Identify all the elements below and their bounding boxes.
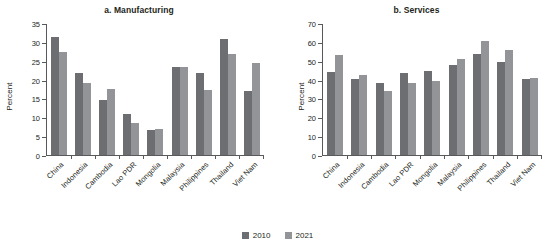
y-tick-mark <box>318 118 322 119</box>
bar-2010 <box>99 100 107 155</box>
bar-2021 <box>481 41 489 155</box>
bar-2010 <box>351 79 359 155</box>
bar-2010 <box>497 62 505 155</box>
panel-title-manufacturing: a. Manufacturing <box>0 5 278 15</box>
bar-2010 <box>327 72 335 155</box>
legend-swatch-icon <box>242 232 249 239</box>
x-axis-labels-manufacturing: ChinaIndonesiaCambodiaLao PDRMongoliaMal… <box>47 158 265 214</box>
legend-label: 2021 <box>296 231 314 240</box>
y-tick-mark <box>318 43 322 44</box>
y-axis-title-services: Percent <box>297 75 306 119</box>
bar-group <box>396 24 420 155</box>
y-tick-mark <box>318 81 322 82</box>
y-tick-mark <box>42 99 46 100</box>
bar-2021 <box>457 59 465 155</box>
chart-legend: 20102021 <box>0 231 555 240</box>
y-tick-label: 10 <box>32 114 40 123</box>
bar-group <box>445 24 469 155</box>
y-tick-label: 0 <box>36 152 40 161</box>
bar-2010 <box>376 83 384 155</box>
y-tick-label: 50 <box>308 57 316 66</box>
bar-2021 <box>408 83 416 155</box>
panels-container: a. Manufacturing Percent 05101520253035 … <box>0 0 555 220</box>
plot-area-manufacturing: 05101520253035 <box>46 24 264 156</box>
bar-group <box>216 24 240 155</box>
bar-2021 <box>432 81 440 155</box>
y-tick-label: 35 <box>32 20 40 29</box>
bar-group <box>143 24 167 155</box>
bar-2010 <box>172 67 180 155</box>
y-tick-mark <box>318 62 322 63</box>
bar-2021 <box>505 50 513 155</box>
bar-2010 <box>400 73 408 155</box>
legend-item: 2021 <box>285 231 314 240</box>
y-tick-mark <box>42 118 46 119</box>
bar-2021 <box>155 129 163 155</box>
x-axis-line-manufacturing <box>46 155 264 156</box>
bar-group <box>372 24 396 155</box>
bar-group <box>493 24 517 155</box>
bar-groups-services <box>323 24 542 155</box>
bar-group <box>192 24 216 155</box>
bar-2010 <box>123 114 131 155</box>
bar-2010 <box>147 130 155 155</box>
y-tick-label: 20 <box>308 114 316 123</box>
y-tick-label: 10 <box>308 133 316 142</box>
bar-2021 <box>204 90 212 156</box>
bar-2021 <box>83 83 91 155</box>
bar-2010 <box>424 71 432 155</box>
y-tick-label: 25 <box>32 57 40 66</box>
y-tick-mark <box>42 81 46 82</box>
bar-2021 <box>384 91 392 155</box>
bar-2010 <box>220 39 228 155</box>
y-tick-mark <box>318 156 322 157</box>
bar-2010 <box>196 73 204 155</box>
y-tick-mark <box>318 99 322 100</box>
bar-groups-manufacturing <box>47 24 264 155</box>
legend-item: 2010 <box>242 231 271 240</box>
y-tick-label: 60 <box>308 38 316 47</box>
bar-2021 <box>180 67 188 155</box>
bar-group <box>420 24 444 155</box>
bar-2010 <box>473 54 481 155</box>
bar-2021 <box>530 78 538 155</box>
y-tick-mark <box>42 156 46 157</box>
bar-group <box>168 24 192 155</box>
y-tick-label: 70 <box>308 20 316 29</box>
y-tick-mark <box>318 24 322 25</box>
x-axis-line-services <box>322 155 542 156</box>
x-axis-label: China <box>321 160 342 181</box>
bar-group <box>95 24 119 155</box>
panel-manufacturing: a. Manufacturing Percent 05101520253035 … <box>0 0 278 220</box>
y-tick-mark <box>42 62 46 63</box>
bar-2010 <box>244 91 252 155</box>
figure-two-panel-bar-charts: a. Manufacturing Percent 05101520253035 … <box>0 0 555 246</box>
bar-group <box>47 24 71 155</box>
y-tick-label: 15 <box>32 95 40 104</box>
bar-group <box>71 24 95 155</box>
y-tick-label: 30 <box>32 38 40 47</box>
y-axis-title-manufacturing: Percent <box>5 75 14 119</box>
y-tick-mark <box>42 43 46 44</box>
bar-2021 <box>131 123 139 155</box>
y-tick-mark <box>42 137 46 138</box>
x-label-cell: Viet Nam <box>519 158 543 214</box>
x-axis-label: China <box>45 160 66 181</box>
bar-2010 <box>51 37 59 155</box>
panel-title-services: b. Services <box>278 5 555 15</box>
bar-2021 <box>59 52 67 155</box>
y-tick-label: 30 <box>308 95 316 104</box>
bar-2021 <box>107 89 115 155</box>
bar-group <box>469 24 493 155</box>
y-tick-label: 20 <box>32 76 40 85</box>
x-label-cell: Viet Nam <box>241 158 265 214</box>
y-tick-label: 40 <box>308 76 316 85</box>
bar-group <box>347 24 371 155</box>
bar-group <box>323 24 347 155</box>
bar-2010 <box>522 79 530 155</box>
bar-group <box>518 24 542 155</box>
bar-2021 <box>228 54 236 155</box>
y-tick-mark <box>318 137 322 138</box>
y-tick-label: 0 <box>312 152 316 161</box>
panel-services: b. Services Percent 010203040506070 Chin… <box>278 0 555 220</box>
